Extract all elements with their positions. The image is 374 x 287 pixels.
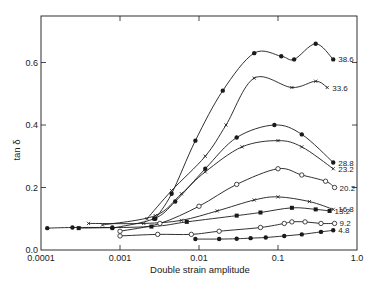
- data-point: [217, 229, 221, 233]
- data-markers: [45, 42, 337, 242]
- data-point: [332, 221, 336, 225]
- data-point: [197, 204, 201, 208]
- data-point: [70, 225, 74, 229]
- series-line: [79, 208, 330, 228]
- data-point: [258, 211, 262, 215]
- data-point: [300, 145, 303, 148]
- data-point: [332, 167, 335, 170]
- data-point: [258, 225, 262, 229]
- data-point: [185, 220, 189, 224]
- data-point: [235, 214, 239, 218]
- data-point: [234, 182, 238, 186]
- series-label: 20.2: [340, 184, 356, 193]
- data-point: [323, 179, 327, 183]
- data-point: [158, 221, 162, 225]
- data-point: [272, 123, 276, 127]
- data-point: [224, 123, 227, 126]
- data-point: [332, 185, 336, 189]
- chart: 0.00010.0010.010.11.00.00.20.40.6 38.633…: [0, 0, 374, 287]
- data-point: [204, 155, 207, 158]
- data-point: [319, 230, 323, 234]
- data-point: [45, 226, 49, 230]
- y-tick-label: 0.2: [25, 183, 38, 193]
- data-point: [331, 160, 335, 164]
- data-point: [279, 54, 283, 58]
- data-point: [326, 86, 329, 89]
- data-point: [319, 221, 323, 225]
- data-point: [248, 236, 252, 240]
- data-point: [118, 234, 122, 238]
- series-line: [155, 44, 333, 219]
- data-point: [303, 220, 307, 224]
- data-point: [300, 232, 304, 236]
- series-label: 23.2: [338, 165, 354, 174]
- data-point: [300, 173, 304, 177]
- data-point: [328, 209, 332, 213]
- data-point: [221, 88, 225, 92]
- x-tick-label: 0.001: [109, 253, 132, 263]
- series-labels: 38.633.628.823.220.216.813.29.24.8: [332, 55, 355, 235]
- y-tick-label: 0.4: [25, 120, 38, 130]
- data-point: [110, 225, 114, 229]
- data-point: [149, 225, 153, 229]
- data-point: [189, 232, 193, 236]
- series-line: [102, 141, 333, 225]
- data-point: [290, 206, 294, 210]
- x-axis-label: Double strain amplitude: [150, 264, 250, 275]
- data-point: [314, 207, 318, 211]
- data-point: [276, 167, 280, 171]
- data-point: [331, 57, 335, 61]
- data-point: [155, 232, 159, 236]
- data-point: [193, 237, 197, 241]
- y-tick-label: 0.6: [25, 58, 38, 68]
- data-point: [118, 229, 122, 233]
- series-line: [89, 197, 334, 224]
- data-point: [282, 234, 286, 238]
- data-point: [193, 138, 197, 142]
- x-tick-label: 0.1: [272, 253, 285, 263]
- series-line: [147, 77, 327, 219]
- y-axis-label: tan δ: [11, 139, 22, 160]
- data-point: [173, 199, 177, 203]
- data-point: [252, 51, 256, 55]
- series-label: 33.6: [332, 84, 348, 93]
- data-point: [292, 57, 296, 61]
- data-point: [313, 42, 317, 46]
- data-point: [331, 228, 335, 232]
- x-tick-label: 0.01: [190, 253, 208, 263]
- data-point: [290, 220, 294, 224]
- data-point: [77, 226, 81, 230]
- data-point: [234, 237, 238, 241]
- x-tick-label: 1.0: [351, 253, 364, 263]
- data-point: [264, 235, 268, 239]
- data-point: [253, 77, 256, 80]
- data-point: [217, 237, 221, 241]
- data-point: [234, 135, 238, 139]
- data-point: [282, 221, 286, 225]
- series-label: 4.8: [338, 226, 350, 235]
- data-point: [300, 132, 304, 136]
- series-label: 38.6: [338, 55, 354, 64]
- y-tick-label: 0.0: [25, 245, 38, 255]
- series-label: 13.2: [335, 207, 351, 216]
